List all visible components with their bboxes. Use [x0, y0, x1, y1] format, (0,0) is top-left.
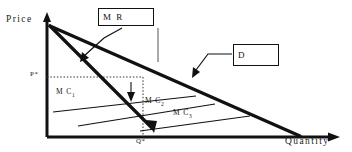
demand-curve — [50, 26, 300, 136]
mc3-label-text: M C — [173, 108, 189, 117]
mr-label-box: M R — [98, 8, 154, 26]
price-star-tick-label: P* — [30, 70, 38, 78]
mc2-label: M C2 — [145, 96, 165, 107]
diagram-canvas: Price Quantity P* Q* M R D M C1 M C2 M C… — [0, 0, 352, 152]
mc2-pointer-arrow — [127, 82, 135, 102]
d-label-box: D — [233, 44, 279, 66]
economics-graph-svg — [0, 0, 352, 152]
quantity-star-tick-label: Q* — [136, 137, 146, 145]
mc3-label: M C3 — [173, 108, 193, 119]
mc1-label: M C1 — [56, 87, 76, 98]
x-axis-label: Quantity — [285, 136, 329, 146]
mc3-curve — [140, 116, 250, 131]
d-label-text: D — [238, 50, 246, 60]
mc1-label-sub: 1 — [72, 92, 76, 98]
mc1-label-text: M C — [56, 87, 72, 96]
y-axis — [43, 12, 51, 137]
y-axis-label: Price — [6, 14, 33, 24]
mc2-label-sub: 2 — [161, 101, 165, 107]
mr-leader-line — [80, 28, 122, 62]
d-leader-line — [192, 54, 232, 78]
mr-label-text: M R — [103, 12, 124, 22]
marginal-revenue-curve — [50, 26, 157, 133]
mc3-label-sub: 3 — [189, 113, 193, 119]
mc2-label-text: M C — [145, 96, 161, 105]
